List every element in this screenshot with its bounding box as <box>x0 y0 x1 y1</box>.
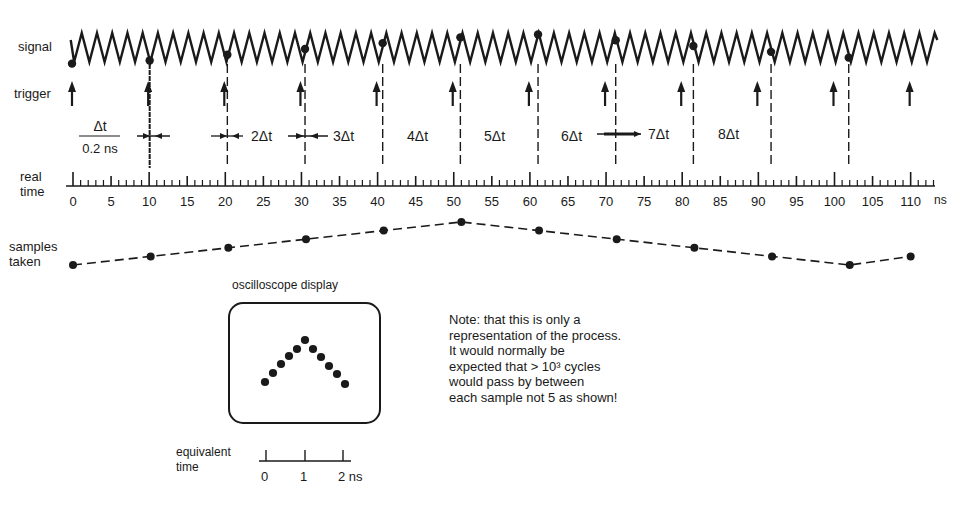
real-time-tick-label: 30 <box>294 194 308 209</box>
scope-dot <box>317 353 325 361</box>
trigger-row-label: trigger <box>14 86 52 101</box>
equivalent-time-axis: 0 1 2 ns <box>259 450 363 484</box>
signal-sample-dot <box>301 45 309 53</box>
trigger-arrow-icon <box>449 81 457 106</box>
delta-t-arrow-1 <box>137 133 170 139</box>
trigger-arrow-icon <box>373 81 381 106</box>
real-time-row-label-2: time <box>20 184 45 199</box>
trigger-arrow-icon <box>753 81 761 106</box>
signal-sample-dot <box>612 36 620 44</box>
sample-point <box>147 252 155 260</box>
scope-dot <box>293 345 301 353</box>
delta-label-7: 7Δt <box>648 126 669 142</box>
real-time-tick-label: 10 <box>142 194 156 209</box>
trigger-arrow-icon <box>601 81 609 106</box>
note-line-3: It would normally be <box>449 343 709 359</box>
signal-sample-dot <box>456 33 464 41</box>
real-time-tick-label: 85 <box>713 194 727 209</box>
note-line-6: each sample not 5 as shown! <box>449 390 709 406</box>
signal-sample-dot <box>145 56 153 64</box>
signal-sample-dot <box>767 48 775 56</box>
samples-row-label-1: samples <box>9 239 58 254</box>
note-line-4: expected that > 10³ cycles <box>449 359 709 375</box>
scope-dot <box>333 370 341 378</box>
sample-point <box>613 235 621 243</box>
signal-sample-dot <box>845 53 853 61</box>
sample-point <box>224 244 232 252</box>
scope-dot <box>325 362 333 370</box>
sample-point <box>768 252 776 260</box>
signal-sample-dot <box>68 59 76 67</box>
signal-sample-dot <box>534 30 542 38</box>
samples-row-label-2: taken <box>9 254 41 269</box>
scope-dot <box>341 380 349 388</box>
real-time-tick-label: 55 <box>485 194 499 209</box>
sample-point <box>69 261 77 269</box>
delta-t-fraction: Δt 0.2 ns <box>79 118 120 156</box>
real-time-tick-label: 40 <box>370 194 384 209</box>
delta-t-arrow-3 <box>288 133 328 139</box>
delta-label-3: 3Δt <box>333 128 354 144</box>
real-time-tick-label: 25 <box>256 194 270 209</box>
signal-sample-dot <box>689 42 697 50</box>
trigger-arrow-icon <box>906 81 914 106</box>
sample-point <box>535 227 543 235</box>
scope-dot <box>301 336 309 344</box>
delta-label-4: 4Δt <box>407 128 428 144</box>
delta-label-6: 6Δt <box>561 128 582 144</box>
trigger-arrow-icon <box>144 81 152 106</box>
samples-taken-plot <box>69 218 915 269</box>
trigger-arrow-icon <box>296 81 304 106</box>
real-time-tick-label: 80 <box>675 194 689 209</box>
real-time-tick-label: 95 <box>789 194 803 209</box>
real-time-tick-label: 20 <box>218 194 232 209</box>
real-time-tick-label: 0 <box>69 194 76 209</box>
trigger-arrow-icon <box>68 81 76 106</box>
sample-point <box>457 218 465 226</box>
scope-dot <box>285 352 293 360</box>
real-time-tick-label: 90 <box>751 194 765 209</box>
trigger-arrow-icon <box>677 81 685 106</box>
signal-sample-dot <box>378 39 386 47</box>
scope-dot <box>277 360 285 368</box>
real-time-tick-label: 5 <box>107 194 114 209</box>
signal-row-label: signal <box>18 39 52 54</box>
real-time-tick-label: 50 <box>447 194 461 209</box>
sample-point <box>380 227 388 235</box>
real-time-row-label-1: real <box>20 169 42 184</box>
delta-t-arrow-6-7 <box>597 131 641 137</box>
real-time-tick-label: 105 <box>862 194 884 209</box>
scope-dot <box>261 378 269 386</box>
sample-point <box>846 261 854 269</box>
sample-point <box>302 235 310 243</box>
note-line-1: Note: that this is only a <box>449 312 709 328</box>
trigger-arrow-icon <box>525 81 533 106</box>
note-line-5: would pass by between <box>449 374 709 390</box>
sample-point <box>907 252 915 260</box>
delta-t-numerator: Δt <box>93 118 106 134</box>
equivalent-time-sampling-diagram: signal trigger real time samples taken Δ… <box>0 0 978 507</box>
equiv-tick-0: 0 <box>261 469 268 484</box>
sample-point <box>690 244 698 252</box>
real-time-axis: 0510152025303540455055606570758085909510… <box>66 172 947 209</box>
real-time-tick-label: 75 <box>637 194 651 209</box>
trigger-arrows <box>68 81 914 106</box>
delta-label-2: 2Δt <box>251 128 272 144</box>
equivalent-time-label-2: time <box>176 460 199 474</box>
oscilloscope-trace-dots <box>261 336 349 388</box>
real-time-tick-label: 70 <box>599 194 613 209</box>
signal-sample-dot <box>223 51 231 59</box>
explanatory-note: Note: that this is only a representation… <box>449 312 709 405</box>
real-time-tick-label: 35 <box>332 194 346 209</box>
oscilloscope-screen <box>229 303 380 423</box>
sample-dashed-lines <box>150 64 849 168</box>
equivalent-time-label-1: equivalent <box>176 445 231 459</box>
scope-dot <box>269 369 277 377</box>
oscilloscope-title: oscilloscope display <box>232 278 338 292</box>
real-time-tick-label: 60 <box>523 194 537 209</box>
trigger-arrow-icon <box>830 81 838 106</box>
real-time-tick-label: 65 <box>561 194 575 209</box>
real-time-tick-label: 15 <box>180 194 194 209</box>
delta-label-8: 8Δt <box>718 126 739 142</box>
delta-t-denominator: 0.2 ns <box>82 141 118 156</box>
